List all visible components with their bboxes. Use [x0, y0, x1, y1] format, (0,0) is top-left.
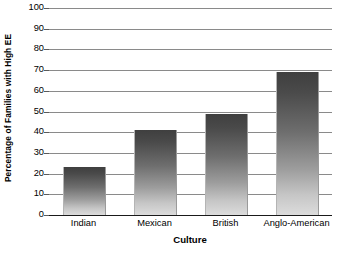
plot-area	[48, 8, 332, 215]
x-axis-line	[47, 215, 332, 216]
y-axis-title: Percentage of Families with High EE	[0, 0, 16, 215]
y-tick-label-60: 60	[18, 86, 44, 95]
bar-british	[205, 114, 248, 215]
y-axis-tick-labels: 0102030405060708090100	[18, 8, 44, 215]
category-label-indian: Indian	[71, 218, 96, 228]
bars	[48, 8, 332, 215]
category-label-anglo-american: Anglo-American	[263, 218, 329, 228]
bar-mexican	[134, 130, 177, 215]
x-axis-title: Culture	[48, 234, 332, 245]
y-tick-label-100: 100	[18, 3, 44, 12]
x-axis-category-labels: IndianMexicanBritishAnglo-American	[48, 218, 332, 232]
y-tick-label-80: 80	[18, 45, 44, 54]
y-tick-label-90: 90	[18, 24, 44, 33]
y-axis-title-text: Percentage of Families with High EE	[3, 33, 13, 181]
bar-indian	[63, 167, 106, 215]
y-tick-label-20: 20	[18, 169, 44, 178]
y-tick-label-30: 30	[18, 148, 44, 157]
bar-anglo-american	[276, 72, 319, 215]
category-label-mexican: Mexican	[137, 218, 172, 228]
y-tick-label-70: 70	[18, 65, 44, 74]
y-tick-mark-0	[44, 215, 49, 216]
y-tick-label-40: 40	[18, 128, 44, 137]
y-tick-label-10: 10	[18, 190, 44, 199]
bar-chart: Percentage of Families with High EE 0102…	[0, 0, 337, 256]
category-label-british: British	[213, 218, 239, 228]
y-tick-label-0: 0	[18, 210, 44, 219]
y-tick-label-50: 50	[18, 107, 44, 116]
